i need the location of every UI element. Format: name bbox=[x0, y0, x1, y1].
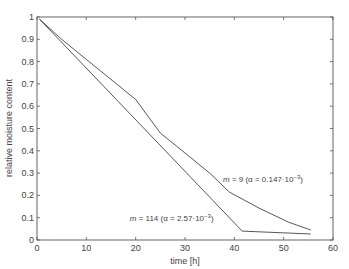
y-tick-label: 0.4 bbox=[21, 146, 34, 156]
series-line-2 bbox=[40, 19, 311, 234]
y-tick-label: 0.6 bbox=[21, 101, 34, 111]
chart: 0102030405060 00.10.20.30.40.50.60.70.80… bbox=[0, 0, 349, 269]
y-tick-label: 1 bbox=[29, 12, 34, 22]
x-tick-label: 50 bbox=[279, 243, 289, 253]
y-axis-ticks: 00.10.20.30.40.50.60.70.80.91 bbox=[21, 12, 333, 245]
curve-annotation-1: m = 9 (α = 0.147·10−3) bbox=[223, 174, 303, 184]
y-tick-label: 0.2 bbox=[21, 190, 34, 200]
y-tick-label: 0.5 bbox=[21, 124, 34, 134]
curve-annotation-2: m = 114 (α = 2.57·10−3) bbox=[130, 213, 214, 223]
x-axis-label: time [h] bbox=[170, 256, 200, 266]
plot-series bbox=[40, 19, 311, 234]
y-tick-label: 0.7 bbox=[21, 79, 34, 89]
y-axis-label: relative moisture content bbox=[4, 78, 14, 177]
y-tick-label: 0.1 bbox=[21, 213, 34, 223]
plot-frame bbox=[37, 17, 333, 240]
x-tick-label: 60 bbox=[328, 243, 338, 253]
y-tick-label: 0.3 bbox=[21, 168, 34, 178]
x-tick-label: 10 bbox=[81, 243, 91, 253]
y-tick-label: 0.9 bbox=[21, 34, 34, 44]
curve-annotations: m = 9 (α = 0.147·10−3)m = 114 (α = 2.57·… bbox=[130, 174, 304, 223]
series-line-1 bbox=[40, 19, 311, 230]
x-tick-label: 0 bbox=[34, 243, 39, 253]
y-tick-label: 0 bbox=[29, 235, 34, 245]
axes-box bbox=[37, 17, 333, 240]
x-tick-label: 20 bbox=[131, 243, 141, 253]
x-tick-label: 40 bbox=[229, 243, 239, 253]
x-tick-label: 30 bbox=[180, 243, 190, 253]
y-tick-label: 0.8 bbox=[21, 57, 34, 67]
